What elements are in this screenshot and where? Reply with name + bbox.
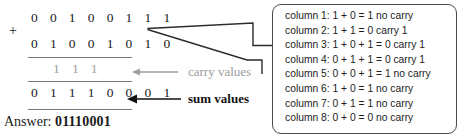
- explanation-line: column 3: 1 + 0 + 1 = 0 carry 1: [285, 38, 460, 53]
- explanation-line: column 8: 0 + 0 = 0 no carry: [285, 111, 460, 126]
- explanation-line: column 4: 0 + 1 + 1 = 0 carry 1: [285, 53, 460, 68]
- explanation-line: column 7: 0 + 1 = 1 no carry: [285, 97, 460, 112]
- sum-arrow-head: [127, 95, 137, 104]
- explanation-line: column 1: 1 + 0 = 1 no carry: [285, 9, 460, 24]
- binary-addition-figure: + 0 0 1 0 0 1 1 1 0 1 0 0 1 0 1 0 1 1 1 …: [0, 0, 461, 138]
- sum-values-label: sum values: [188, 91, 249, 107]
- explanation-lines: column 1: 1 + 0 = 1 no carry column 2: 1…: [285, 9, 460, 126]
- carry-values-label: carry values: [188, 64, 251, 80]
- carry-arrow-head: [132, 69, 140, 76]
- explanation-line: column 5: 0 + 0 + 1 = 1 no carry: [285, 67, 460, 82]
- explanation-line: column 6: 1 + 0 = 1 no carry: [285, 82, 460, 97]
- pointer-line-upper: [148, 23, 273, 46]
- explanation-line: column 2: 1 + 1 = 0 carry 1: [285, 24, 460, 39]
